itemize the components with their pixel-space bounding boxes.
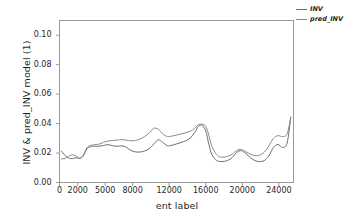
x-tick-label: 20000 [222,186,262,195]
x-axis-title: ent label [59,200,295,211]
chart-legend: INV pred_INV [296,5,353,25]
legend-swatch-pred-inv [296,19,307,20]
x-tick-label: 16000 [186,186,226,195]
legend-label-pred-inv: pred_INV [310,15,343,24]
legend-item-inv: INV [296,5,353,14]
x-tick-label: 24000 [259,186,299,195]
chart-figure: 0.000.020.040.060.080.10 020005000800012… [0,0,353,222]
y-axis-tick-marks [56,35,60,182]
x-tick-label: 8000 [113,186,153,195]
legend-item-pred-inv: pred_INV [296,15,353,24]
plot-frame [60,21,294,183]
legend-swatch-inv [296,9,307,10]
x-tick-label: 12000 [149,186,189,195]
y-axis-title: INV & pred_INV model (1) [21,15,32,190]
legend-label-inv: INV [310,5,323,14]
